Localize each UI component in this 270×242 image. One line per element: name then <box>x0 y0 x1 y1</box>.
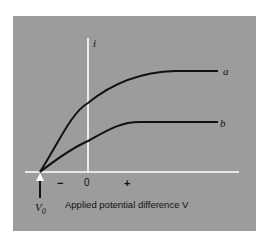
curve-b-label: b <box>220 117 226 129</box>
tick-plus: + <box>124 177 130 189</box>
x-axis-label: Applied potential difference V <box>65 199 189 210</box>
curve-b <box>40 122 218 172</box>
tick-zero: 0 <box>84 177 90 188</box>
photocurrent-diagram: i a b − 0 + V0 Applied potential differe… <box>0 0 270 242</box>
tick-minus: − <box>57 177 63 189</box>
v0-label: V0 <box>35 201 46 216</box>
y-axis-label: i <box>93 37 96 49</box>
curve-a-label: a <box>223 65 229 77</box>
v0-arrow-icon <box>36 173 44 181</box>
